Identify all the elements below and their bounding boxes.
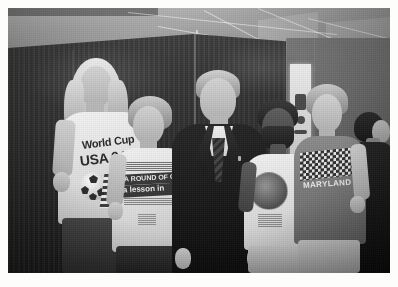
lapel-pin	[238, 156, 241, 161]
tshirt-maryland-text: MARYLAND	[303, 179, 352, 190]
photograph: World Cup USA 94 A ROUN	[8, 8, 390, 273]
checkered-flag-graphic	[300, 147, 352, 180]
subject-man-curly-right: MARYLAND	[294, 84, 366, 273]
photo-page: World Cup USA 94 A ROUN	[0, 0, 398, 287]
necktie	[212, 138, 225, 182]
